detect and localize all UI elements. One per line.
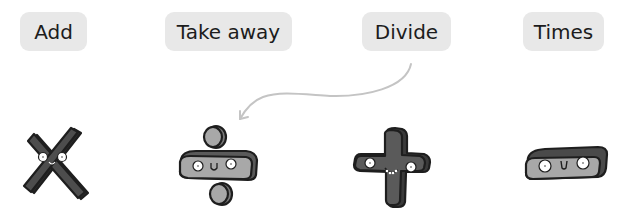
curved-arrow-icon [240,64,411,119]
plus-sign-icon [354,128,430,207]
times-sign-icon [24,128,88,199]
times-sign-character[interactable] [24,128,88,199]
division-sign-character[interactable] [180,126,257,205]
plus-sign-character[interactable] [354,128,430,207]
division-sign-icon [180,126,257,205]
illustration-canvas [0,0,638,215]
minus-sign-character[interactable] [526,147,607,179]
